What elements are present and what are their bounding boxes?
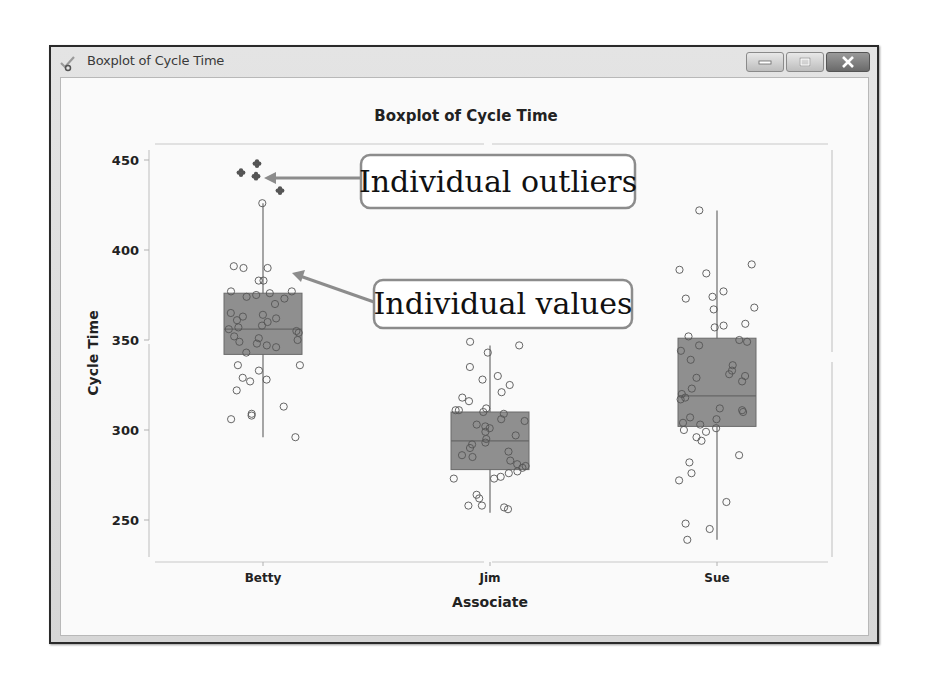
outlier-point bbox=[253, 159, 262, 168]
data-point bbox=[247, 378, 254, 385]
data-point bbox=[491, 475, 498, 482]
outlier-point bbox=[276, 186, 285, 195]
data-point bbox=[688, 470, 695, 477]
data-point bbox=[230, 263, 237, 270]
data-point bbox=[292, 434, 299, 441]
data-point bbox=[465, 398, 472, 405]
annotation-text: Individual outliers bbox=[359, 164, 637, 199]
data-point bbox=[693, 434, 700, 441]
data-point bbox=[466, 363, 473, 370]
data-point bbox=[702, 428, 709, 435]
data-point bbox=[263, 376, 270, 383]
data-point bbox=[233, 387, 240, 394]
boxplot-chart: Boxplot of Cycle Time 250300350400450 Be… bbox=[0, 0, 927, 681]
data-point bbox=[494, 372, 501, 379]
data-point bbox=[264, 264, 271, 271]
data-point bbox=[680, 426, 687, 433]
y-tick-label: 300 bbox=[112, 423, 139, 438]
data-point bbox=[505, 470, 512, 477]
data-point bbox=[720, 322, 727, 329]
data-point bbox=[228, 416, 235, 423]
data-point bbox=[682, 295, 689, 302]
data-point bbox=[710, 306, 717, 313]
x-tick-label: Sue bbox=[704, 571, 729, 585]
outlier-point bbox=[252, 172, 261, 181]
annotation-text: Individual values bbox=[374, 286, 633, 321]
data-point bbox=[498, 389, 505, 396]
data-point bbox=[240, 264, 247, 271]
data-point bbox=[234, 362, 241, 369]
chart-title: Boxplot of Cycle Time bbox=[374, 107, 557, 125]
y-axis: 250300350400450 bbox=[112, 153, 149, 528]
x-axis-label: Associate bbox=[452, 594, 528, 610]
data-point bbox=[450, 475, 457, 482]
data-point bbox=[478, 502, 485, 509]
arrowhead-icon bbox=[264, 172, 276, 184]
data-point bbox=[682, 520, 689, 527]
data-point bbox=[239, 374, 246, 381]
box-sue bbox=[676, 207, 758, 544]
data-point bbox=[751, 304, 758, 311]
data-point bbox=[696, 207, 703, 214]
data-point bbox=[676, 477, 683, 484]
y-tick-label: 400 bbox=[112, 243, 139, 258]
data-point bbox=[748, 261, 755, 268]
data-point bbox=[465, 502, 472, 509]
data-point bbox=[709, 293, 716, 300]
y-tick-label: 250 bbox=[112, 513, 139, 528]
y-tick-label: 450 bbox=[112, 153, 139, 168]
data-point bbox=[296, 362, 303, 369]
data-point bbox=[467, 338, 474, 345]
data-point bbox=[684, 536, 691, 543]
data-point bbox=[506, 381, 513, 388]
data-point bbox=[516, 342, 523, 349]
data-point bbox=[698, 437, 705, 444]
arrow-values bbox=[300, 276, 374, 302]
data-point bbox=[259, 200, 266, 207]
annotation-outliers: Individual outliers bbox=[264, 155, 637, 208]
data-point bbox=[706, 525, 713, 532]
box-jim bbox=[450, 338, 529, 513]
data-point bbox=[703, 270, 710, 277]
data-point bbox=[255, 367, 262, 374]
box-betty bbox=[224, 159, 304, 441]
x-axis: BettyJimSue bbox=[245, 562, 730, 585]
data-point bbox=[459, 394, 466, 401]
data-point bbox=[686, 459, 693, 466]
outlier-point bbox=[237, 168, 246, 177]
data-point bbox=[720, 288, 727, 295]
x-tick-label: Jim bbox=[478, 571, 500, 585]
data-point bbox=[280, 403, 287, 410]
x-tick-label: Betty bbox=[245, 571, 282, 585]
annotation-values: Individual values bbox=[292, 270, 632, 328]
boxes bbox=[224, 159, 758, 543]
data-point bbox=[497, 473, 504, 480]
data-point bbox=[742, 320, 749, 327]
data-point bbox=[676, 266, 683, 273]
y-axis-label: Cycle Time bbox=[85, 310, 101, 395]
data-point bbox=[723, 498, 730, 505]
data-point bbox=[479, 376, 486, 383]
data-point bbox=[736, 452, 743, 459]
y-tick-label: 350 bbox=[112, 333, 139, 348]
